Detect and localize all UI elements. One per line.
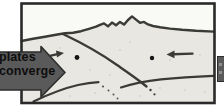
left-plate-dot xyxy=(75,55,80,60)
label-fragment-mark xyxy=(219,63,222,66)
converge-arrow-right-clipped xyxy=(217,56,224,82)
right-plate-dot xyxy=(150,56,154,60)
label-fragment-mark xyxy=(219,71,222,74)
plate-convergence-figure: plates converge xyxy=(0,0,224,110)
diagram-canvas xyxy=(0,0,224,110)
